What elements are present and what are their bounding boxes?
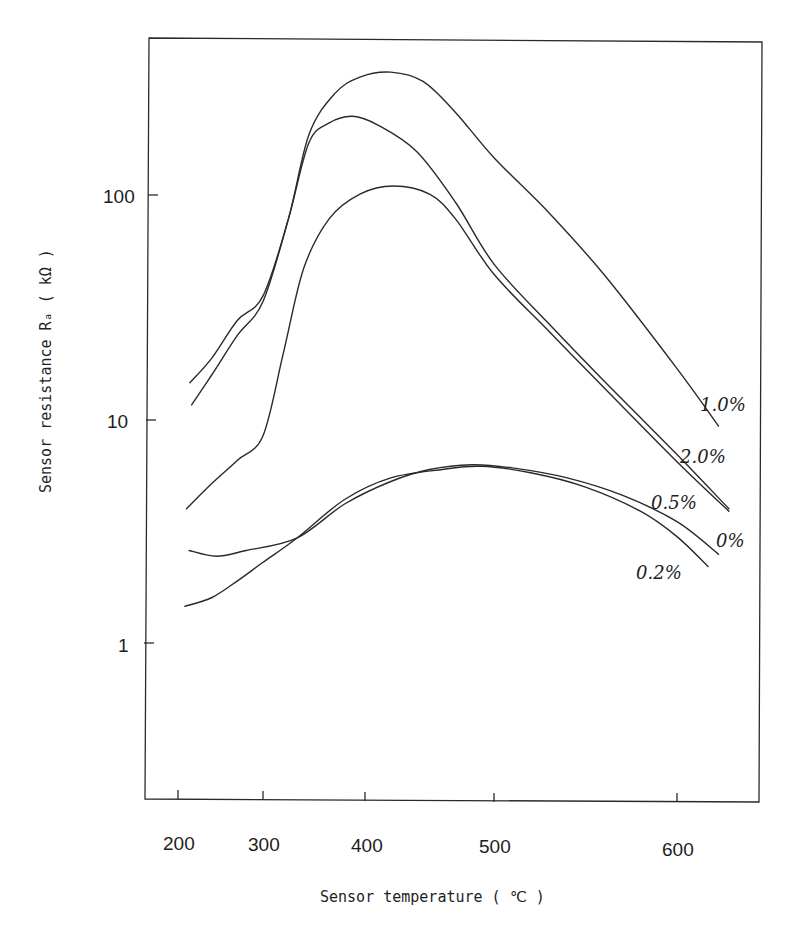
series-label-0: 0%: [716, 530, 745, 551]
chart: 100 10 1 200 300 400 500 600 Sensor temp…: [0, 0, 794, 941]
y-tick-label-10: 10: [107, 411, 128, 432]
y-tick-label-1: 1: [118, 635, 129, 656]
series-label-1-0: 1.0%: [700, 394, 746, 415]
x-tick-label-500: 500: [479, 836, 511, 857]
curves-group: [185, 72, 729, 606]
series-label-0-2: 0.2%: [636, 562, 682, 583]
curve-0-2pct: [185, 466, 708, 606]
curve-2-0pct: [192, 116, 729, 508]
curve-1-0pct: [190, 72, 719, 426]
x-axis-title: Sensor temperature ( ℃ ): [320, 888, 545, 906]
y-tick-label-100: 100: [103, 186, 135, 207]
x-tick-label-200: 200: [163, 833, 195, 854]
x-tick-label-400: 400: [351, 835, 383, 856]
x-tick-label-300: 300: [248, 834, 280, 855]
y-axis-title: Sensor resistance Rₐ ( kΩ ): [37, 249, 55, 493]
plot-frame: [145, 38, 762, 802]
series-label-0-5: 0.5%: [651, 492, 697, 513]
series-label-2-0: 2.0%: [679, 446, 726, 467]
curve-0-5pct: [187, 186, 729, 511]
x-tick-label-600: 600: [662, 839, 694, 860]
